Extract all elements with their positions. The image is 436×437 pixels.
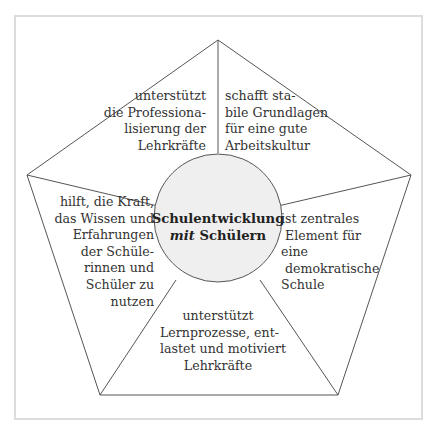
center-rest: Schülern: [195, 228, 266, 243]
segment-right: ist zentrales Element für eine demokrati…: [281, 211, 379, 294]
center-italic: mit: [170, 228, 195, 243]
center-line-1: Schulentwicklung: [150, 210, 286, 227]
center-title: Schulentwicklung mit Schülern: [150, 210, 286, 244]
center-line-2: mit Schülern: [150, 227, 286, 244]
segment-top-right: schafft sta- bile Grundlagen für eine gu…: [225, 88, 328, 154]
segment-top-left: unterstützt die Professiona- lisierung d…: [104, 88, 206, 154]
segment-left: hilft, die Kraft, das Wissen und Erfahru…: [54, 194, 154, 310]
segment-bottom: unterstützt Lernprozesse, ent- lastet un…: [160, 308, 276, 374]
